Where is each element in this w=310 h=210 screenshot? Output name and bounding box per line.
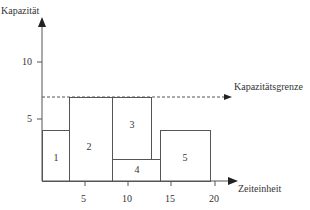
x-tick-5: 5 (81, 193, 86, 204)
block-3-label: 3 (122, 119, 142, 130)
x-axis-label: Zeiteinheit (238, 183, 281, 194)
x-tick-15: 15 (165, 193, 175, 204)
y-axis-label: Kapazität (1, 5, 39, 16)
capacity-label: Kapazitätsgrenze (234, 81, 303, 92)
block-2 (69, 97, 113, 182)
block-4-label: 4 (127, 164, 147, 175)
block-2-label: 2 (79, 141, 99, 152)
x-tick-20: 20 (209, 193, 219, 204)
x-tick-10: 10 (122, 193, 132, 204)
block-5-label: 5 (175, 152, 195, 163)
block-1-label: 1 (46, 152, 66, 163)
y-tick-10: 10 (22, 56, 32, 67)
y-tick-5: 5 (27, 113, 32, 124)
